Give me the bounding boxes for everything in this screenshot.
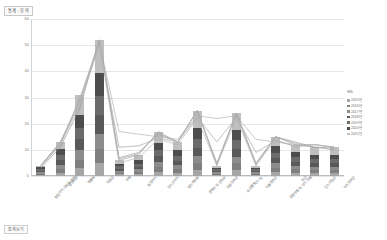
trend-line bbox=[41, 44, 334, 166]
legend-label: 2021년 bbox=[351, 132, 362, 136]
trend-line bbox=[41, 40, 334, 166]
x-axis-label: 이익잉여금 bbox=[343, 176, 357, 190]
x-axis-label: 유형자산 bbox=[68, 176, 79, 187]
y-axis-tick-label: 20 bbox=[18, 122, 29, 126]
legend-swatch bbox=[347, 110, 350, 113]
plot-area bbox=[31, 19, 344, 176]
legend-label: 2017년 bbox=[351, 110, 362, 114]
x-axis-label: 자산총계(누적) bbox=[246, 176, 263, 193]
legend: 년도 2015년2016년2017년2018년2019년2020년2021년 bbox=[347, 90, 385, 137]
legend-label: 2018년 bbox=[351, 115, 362, 119]
legend-label: 2016년 bbox=[351, 104, 362, 108]
legend-swatch bbox=[347, 127, 350, 130]
legend-items: 2015년2016년2017년2018년2019년2020년2021년 bbox=[347, 98, 385, 137]
y-axis-tick-label: 50 bbox=[18, 43, 29, 47]
y-axis-tick-label: 0 bbox=[18, 174, 29, 178]
y-axis-tick-label: 30 bbox=[18, 96, 29, 100]
legend-swatch bbox=[347, 99, 350, 102]
legend-label: 2019년 bbox=[351, 121, 362, 125]
chart-screenshot: 통계 : 요약 0102030405060 영업이익 대비율 합계유형자산매출액… bbox=[0, 0, 387, 240]
x-axis-label: 판매비 및 관리비 bbox=[208, 176, 227, 195]
line-overlay-group bbox=[31, 19, 344, 176]
trend-line bbox=[41, 40, 334, 167]
x-axis-label: 자본금 bbox=[106, 176, 115, 185]
y-axis-tick-label: 10 bbox=[18, 148, 29, 152]
x-axis-label: 영업이익 bbox=[146, 176, 157, 187]
y-axis-tick-label: 60 bbox=[18, 17, 29, 21]
x-axis-label: 단기차입금 bbox=[323, 176, 337, 190]
legend-title: 년도 bbox=[347, 90, 385, 97]
x-axis-label: 매출액 bbox=[87, 176, 96, 185]
x-axis-label: 당기순이익 bbox=[167, 176, 181, 190]
x-axis-label: 법인세비용 bbox=[186, 176, 200, 190]
x-axis-label: 자본잉여금 bbox=[225, 176, 239, 190]
y-axis-tick-label: 40 bbox=[18, 69, 29, 73]
x-axis-label: 이월결손금 bbox=[264, 176, 278, 190]
x-axis-labels: 영업이익 대비율 합계유형자산매출액자본금부채영업이익당기순이익법인세비용판매비… bbox=[31, 176, 344, 224]
trend-line bbox=[41, 40, 334, 168]
chart-caption: 통계보기 bbox=[4, 225, 28, 234]
legend-label: 2020년 bbox=[351, 126, 362, 130]
x-axis-label: 부채 bbox=[125, 176, 132, 183]
legend-swatch bbox=[347, 105, 350, 108]
trend-line bbox=[41, 40, 334, 167]
legend-swatch bbox=[347, 121, 350, 124]
legend-swatch bbox=[347, 133, 350, 136]
legend-swatch bbox=[347, 116, 350, 119]
trend-line bbox=[41, 45, 334, 165]
legend-label: 2015년 bbox=[351, 98, 362, 102]
chart-title: 통계 : 요약 bbox=[4, 6, 33, 16]
trend-line bbox=[41, 43, 334, 166]
legend-item[interactable]: 2021년 bbox=[347, 131, 385, 137]
trend-line bbox=[41, 44, 334, 166]
